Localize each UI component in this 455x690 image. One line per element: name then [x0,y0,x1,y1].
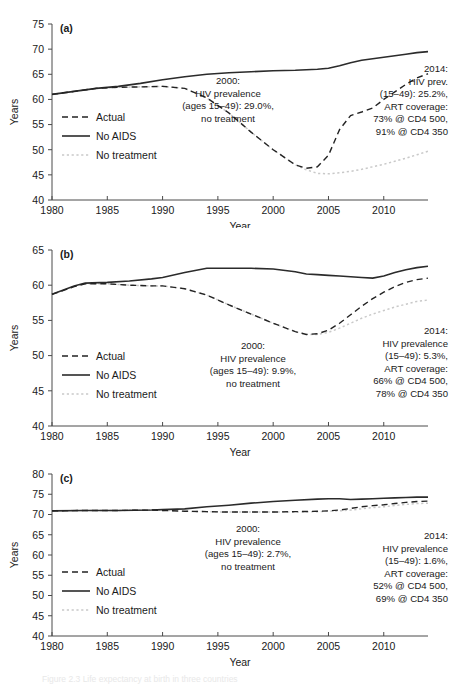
legend-item-no-treatment-label: No treatment [96,388,157,400]
annotation-2000-line: 2000: [236,523,260,534]
x-tick-label: 2005 [317,640,341,652]
annotation-2000: 2000:HIV prevalence(ages 15–49): 2.7%,no… [205,523,291,572]
y-tick-label: 60 [32,279,44,291]
y-tick-label: 70 [32,43,44,55]
annotation-2014-line: 2014: [424,530,448,541]
annotation-2000-line: no treatment [201,113,255,124]
chart-svg-c: 4045505560657075801980198519901995200020… [0,456,455,666]
x-tick-label: 1995 [206,430,230,442]
annotation-2000-line: 2000: [241,340,265,351]
x-tick-label: 1980 [40,204,64,216]
annotation-2014-line: (15–49): 5.3%, [385,350,448,361]
x-tick-label: 1990 [151,640,175,652]
x-tick-label: 1990 [151,430,175,442]
y-tick-label: 50 [32,349,44,361]
chart-svg-a: 4045505560657075198019851990199520002005… [0,0,455,228]
y-tick-label: 65 [32,244,44,256]
x-axis-title: Year [229,656,251,666]
annotation-2000-line: HIV prevalence [220,353,286,364]
y-tick-label: 45 [32,610,44,622]
series-line-actual [52,278,428,334]
chart-legend: ActualNo AIDSNo treatment [62,350,157,400]
x-tick-label: 1995 [206,204,230,216]
y-tick-label: 55 [32,118,44,130]
legend-item-no-aids-label: No AIDS [96,585,136,597]
x-axis-title: Year [229,220,251,228]
annotation-2014-line: 52% @ CD4 500, [373,580,448,591]
chart-panel-a: 4045505560657075198019851990199520002005… [0,0,455,228]
y-tick-label: 50 [32,589,44,601]
annotation-2014-line: 78% @ CD4 350 [376,388,448,399]
y-tick-label: 50 [32,144,44,156]
y-axis-title: Years [8,99,20,125]
annotation-2000-line: HIV prevalence [195,88,261,99]
legend-item-no-treatment-label: No treatment [96,604,157,616]
annotation-2014-line: (15–49): 25.2%, [380,88,448,99]
legend-item-actual-label: Actual [96,350,125,362]
y-axis-title: Years [8,325,20,351]
annotation-2014-line: (15–49): 1.6%, [385,555,448,566]
y-tick-label: 45 [32,169,44,181]
panel-letter: (c) [60,472,73,484]
annotation-2014: 2014:HIV prevalence(15–49): 5.3%,ART cov… [373,325,448,399]
x-tick-label: 1990 [151,204,175,216]
annotation-2014: 2014:HIV prev.(15–49): 25.2%,ART coverag… [373,63,448,137]
annotation-2014-line: ART coverage: [384,101,448,112]
annotation-2014-line: ART coverage: [384,568,448,579]
legend-item-actual-label: Actual [96,566,125,578]
y-tick-label: 45 [32,385,44,397]
x-tick-label: 2000 [261,640,285,652]
annotation-2014-line: 66% @ CD4 500, [373,375,448,386]
x-tick-label: 1980 [40,640,64,652]
chart-legend: ActualNo AIDSNo treatment [62,111,157,161]
annotation-2014-line: 2014: [424,325,448,336]
annotation-2014-line: HIV prevalence [382,543,448,554]
annotation-2000: 2000:HIV prevalence(ages 15–49): 29.0%,n… [182,75,274,124]
y-tick-label: 60 [32,549,44,561]
annotation-2000-line: 2000: [216,75,240,86]
chart-panel-b: 4045505560651980198519901995200020052010… [0,228,455,456]
x-tick-label: 2010 [372,430,396,442]
chart-panel-c: 4045505560657075801980198519901995200020… [0,456,455,666]
annotation-2000-line: (ages 15–49): 9.9%, [210,365,296,376]
y-tick-label: 60 [32,93,44,105]
x-tick-label: 1985 [96,430,120,442]
y-tick-label: 75 [32,488,44,500]
annotation-2000-line: HIV prevalence [215,536,281,547]
y-tick-label: 65 [32,529,44,541]
series-line-no-aids [52,497,428,511]
y-tick-label: 55 [32,314,44,326]
y-tick-label: 80 [32,468,44,480]
legend-item-no-aids-label: No AIDS [96,369,136,381]
x-tick-label: 2000 [261,430,285,442]
x-tick-label: 2000 [261,204,285,216]
figure-caption: Figure 2.3 Life expectancy at birth in t… [0,674,455,685]
chart-svg-b: 4045505560651980198519901995200020052010… [0,228,455,456]
y-tick-label: 65 [32,68,44,80]
annotation-2014-line: HIV prev. [409,76,448,87]
x-tick-label: 2005 [317,204,341,216]
annotation-2014-line: 69% @ CD4 350 [376,593,448,604]
annotation-2014-line: HIV prevalence [382,338,448,349]
x-tick-label: 2005 [317,430,341,442]
legend-item-actual-label: Actual [96,111,125,123]
x-tick-label: 2010 [372,204,396,216]
x-tick-label: 1985 [96,204,120,216]
annotation-2000-line: (ages 15–49): 2.7%, [205,548,291,559]
panel-letter: (b) [60,248,73,260]
panel-letter: (a) [60,22,73,34]
annotation-2000-line: no treatment [221,561,275,572]
legend-item-no-treatment-label: No treatment [96,149,157,161]
chart-legend: ActualNo AIDSNo treatment [62,566,157,616]
figure-caption-row: Figure 2.3 Life expectancy at birth in t… [0,674,455,690]
x-axis-title: Year [229,446,251,456]
figure-container: 4045505560657075198019851990199520002005… [0,0,455,690]
y-tick-label: 75 [32,18,44,30]
annotation-2000: 2000:HIV prevalence(ages 15–49): 9.9%,no… [210,340,296,389]
annotation-2014-line: ART coverage: [384,363,448,374]
y-tick-label: 70 [32,508,44,520]
series-line-no-aids [52,266,428,294]
annotation-2014-line: 73% @ CD4 500, [373,113,448,124]
annotation-2014-line: 91% @ CD4 350 [376,126,448,137]
y-axis-title: Years [8,542,20,568]
